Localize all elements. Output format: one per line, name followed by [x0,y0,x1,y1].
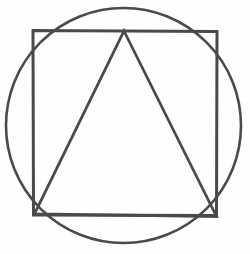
figure-canvas [0,0,250,254]
geometric-figure [0,0,250,254]
